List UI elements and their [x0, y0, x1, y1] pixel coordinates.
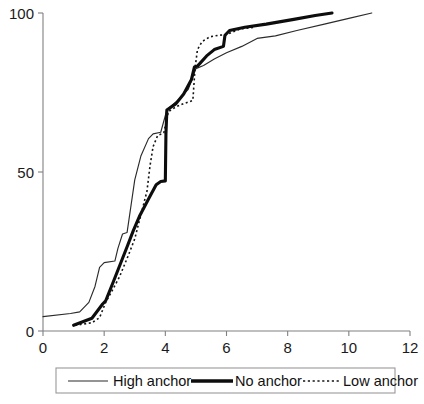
legend-label-no-anchor: No anchor	[235, 373, 302, 389]
x-tick-label: 10	[340, 339, 357, 356]
x-tick-label: 2	[100, 339, 108, 356]
series-line-high-anchor	[43, 13, 372, 317]
plot-series-group	[43, 13, 372, 325]
y-tick-group: 050100	[9, 5, 43, 340]
legend-label-high-anchor: High anchor	[113, 373, 191, 389]
x-tick-label: 0	[39, 339, 47, 356]
x-tick-group: 024681012	[39, 331, 419, 356]
legend: High anchor No anchor Low anchor	[56, 368, 418, 393]
x-tick-label: 8	[283, 339, 291, 356]
x-tick-label: 4	[161, 339, 169, 356]
y-axis: 050100	[9, 5, 43, 340]
line-chart: 050100 024681012 High anchor No anchor	[0, 0, 424, 404]
x-tick-label: 12	[402, 339, 419, 356]
chart-container: 050100 024681012 High anchor No anchor	[0, 0, 424, 404]
series-line-no-anchor	[74, 13, 332, 325]
x-axis: 024681012	[39, 331, 419, 356]
y-tick-label: 100	[9, 5, 34, 22]
y-tick-label: 50	[17, 164, 34, 181]
legend-label-low-anchor: Low anchor	[343, 373, 418, 389]
y-tick-label: 0	[26, 323, 34, 340]
x-tick-label: 6	[222, 339, 230, 356]
